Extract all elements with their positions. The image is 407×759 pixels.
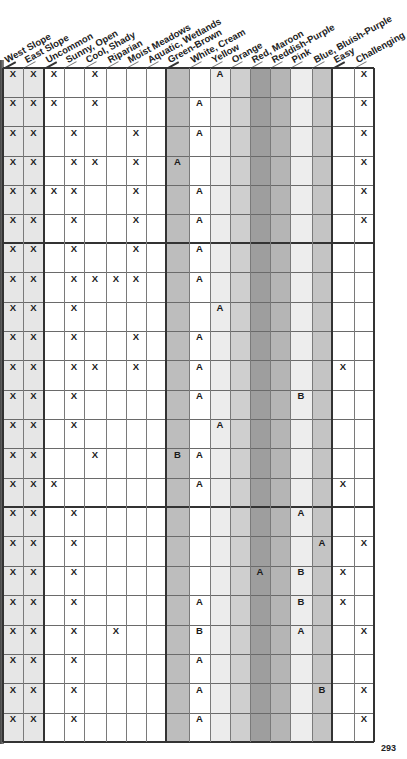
cell-white-cream: A [189, 269, 210, 287]
cell-east-slope: X [23, 387, 44, 404]
cell-east-slope: X [23, 240, 44, 257]
cell-sunny-open: X [64, 563, 84, 580]
cell-west-slope: X [3, 710, 23, 727]
cell-uncommon: X [44, 475, 64, 492]
column-shade-pink [290, 68, 312, 742]
cell-east-slope: X [23, 563, 44, 580]
cell-green-brown: A [166, 153, 189, 170]
cell-moist-meadows: X [126, 211, 146, 228]
cell-white-cream: A [189, 445, 210, 463]
cell-easy: X [332, 592, 354, 610]
cell-cool-shady: X [84, 153, 106, 170]
cell-east-slope: X [23, 504, 44, 521]
cell-sunny-open: X [64, 533, 84, 551]
cell-riparian: X [106, 622, 126, 639]
cell-east-slope: X [23, 710, 44, 727]
cell-east-slope: X [23, 475, 44, 492]
cell-pink: B [290, 563, 312, 580]
cell-green-brown: B [166, 445, 189, 463]
cell-pink: B [290, 592, 312, 610]
cell-cool-shady: X [84, 445, 106, 463]
cell-sunny-open: X [64, 240, 84, 257]
column-shade-blue-bluish-purple [312, 68, 332, 742]
cell-west-slope: X [3, 153, 23, 170]
cell-cool-shady: X [84, 94, 106, 111]
column-shade-orange [230, 68, 250, 742]
cell-sunny-open: X [64, 680, 84, 698]
column-shade-red-maroon [250, 68, 270, 742]
cell-yellow: A [210, 65, 230, 82]
cell-moist-meadows: X [126, 357, 146, 375]
cell-east-slope: X [23, 182, 44, 199]
cell-east-slope: X [23, 328, 44, 345]
cell-uncommon: X [44, 94, 64, 111]
cell-challenging: X [354, 680, 374, 698]
cell-challenging: X [354, 65, 374, 82]
column-divider [230, 68, 231, 742]
cell-east-slope: X [23, 651, 44, 668]
column-shade-easy [332, 68, 354, 742]
cell-white-cream: A [189, 328, 210, 345]
cell-west-slope: X [3, 240, 23, 257]
cell-east-slope: X [23, 153, 44, 170]
column-shade-riparian [106, 68, 126, 742]
cell-west-slope: X [3, 123, 23, 141]
cell-west-slope: X [3, 416, 23, 433]
cell-white-cream: A [189, 592, 210, 610]
column-shade-uncommon [44, 68, 64, 742]
column-divider [189, 68, 190, 742]
column-shade-white-cream [189, 68, 210, 742]
cell-east-slope: X [23, 299, 44, 316]
cell-sunny-open: X [64, 592, 84, 610]
cell-white-cream: A [189, 710, 210, 727]
cell-cool-shady: X [84, 269, 106, 287]
cell-riparian: X [106, 269, 126, 287]
cell-east-slope: X [23, 123, 44, 141]
cell-white-cream: A [189, 94, 210, 111]
cell-west-slope: X [3, 563, 23, 580]
cell-white-cream: A [189, 387, 210, 404]
cell-west-slope: X [3, 182, 23, 199]
cell-white-cream: A [189, 651, 210, 668]
cell-east-slope: X [23, 622, 44, 639]
column-shade-reddish-purple [270, 68, 290, 742]
column-group-divider [331, 68, 333, 742]
cell-east-slope: X [23, 533, 44, 551]
cell-west-slope: X [3, 65, 23, 82]
cell-moist-meadows: X [126, 240, 146, 257]
column-divider [290, 68, 291, 742]
cell-west-slope: X [3, 592, 23, 610]
cell-uncommon: X [44, 182, 64, 199]
cell-sunny-open: X [64, 387, 84, 404]
cell-west-slope: X [3, 269, 23, 287]
cell-pink: B [290, 387, 312, 404]
cell-challenging: X [354, 533, 374, 551]
cell-moist-meadows: X [126, 182, 146, 199]
cell-moist-meadows: X [126, 123, 146, 141]
cell-cool-shady: X [84, 65, 106, 82]
cell-west-slope: X [3, 651, 23, 668]
column-shade-yellow [210, 68, 230, 742]
cell-white-cream: A [189, 123, 210, 141]
cell-sunny-open: X [64, 153, 84, 170]
column-shade-aquatic-wetlands [146, 68, 166, 742]
column-divider [250, 68, 251, 742]
cell-white-cream: A [189, 475, 210, 492]
cell-west-slope: X [3, 504, 23, 521]
column-divider [146, 68, 147, 742]
cell-cool-shady: X [84, 357, 106, 375]
cell-sunny-open: X [64, 299, 84, 316]
cell-white-cream: A [189, 357, 210, 375]
cell-red-maroon: A [250, 563, 270, 580]
cell-white-cream: A [189, 680, 210, 698]
cell-west-slope: X [3, 328, 23, 345]
cell-west-slope: X [3, 445, 23, 463]
cell-challenging: X [354, 182, 374, 199]
cell-sunny-open: X [64, 328, 84, 345]
cell-white-cream: A [189, 211, 210, 228]
cell-sunny-open: X [64, 357, 84, 375]
cell-white-cream: B [189, 622, 210, 639]
cell-yellow: A [210, 416, 230, 433]
cell-east-slope: X [23, 269, 44, 287]
